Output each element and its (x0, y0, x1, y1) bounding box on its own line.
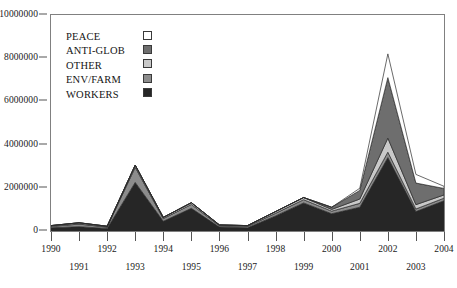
x-tick-label: 1997 (238, 262, 257, 272)
y-tick-label: 6000000 (4, 95, 38, 105)
legend-item: ENV/FARM (66, 71, 166, 85)
x-tick-mark (444, 232, 445, 241)
x-tick-mark (388, 232, 389, 241)
x-tick-label: 1996 (210, 244, 229, 254)
x-tick-mark (360, 232, 361, 241)
x-tick-mark (163, 232, 164, 241)
x-tick-label: 1990 (41, 244, 60, 254)
legend-item-label: WORKERS (66, 89, 119, 100)
legend-item-label: ENV/FARM (66, 74, 121, 85)
x-tick-label: 1991 (69, 262, 88, 272)
y-tick-label: 4000000 (4, 139, 38, 149)
legend-swatch (143, 31, 152, 40)
x-tick-label: 2002 (378, 244, 397, 254)
x-tick-mark (107, 232, 108, 241)
y-tick-label: 2000000 (4, 182, 38, 192)
y-tick-label: 0 (33, 225, 38, 235)
y-tick-mark (39, 14, 47, 15)
x-tick-label: 1994 (154, 244, 173, 254)
x-tick-label: 1998 (266, 244, 285, 254)
y-tick-label: 8000000 (4, 52, 38, 62)
legend-item: ANTI-GLOB (66, 42, 166, 56)
legend-item-label: PEACE (66, 31, 100, 42)
x-tick-mark (51, 232, 52, 241)
legend-item-label: OTHER (66, 60, 102, 71)
x-tick-mark (191, 232, 192, 241)
x-tick-label: 2001 (350, 262, 369, 272)
legend-item: PEACE (66, 28, 166, 42)
x-tick-mark (332, 232, 333, 241)
legend-swatch (143, 45, 152, 54)
x-tick-label: 1995 (182, 262, 201, 272)
legend-item-label: ANTI-GLOB (66, 45, 125, 56)
y-tick-mark (39, 186, 47, 187)
y-tick-label: 10000000 (0, 9, 38, 19)
legend-item: OTHER (66, 57, 166, 71)
x-axis: 1990199119921993199419951996199719981999… (50, 232, 445, 288)
legend-swatch (143, 74, 152, 83)
x-tick-mark (135, 232, 136, 241)
y-tick-mark (39, 57, 47, 58)
x-tick-mark (79, 232, 80, 241)
chart-page: 1000000080000006000000400000020000000 PE… (0, 0, 457, 288)
x-tick-mark (219, 232, 220, 241)
legend-swatch (143, 59, 152, 68)
legend-swatch (143, 88, 152, 97)
x-tick-mark (248, 232, 249, 241)
x-tick-label: 1993 (126, 262, 145, 272)
chart-legend: PEACEANTI-GLOBOTHERENV/FARMWORKERS (66, 28, 166, 100)
y-tick-mark (39, 143, 47, 144)
y-tick-mark (39, 100, 47, 101)
y-tick-mark (39, 230, 47, 231)
x-tick-label: 1992 (97, 244, 116, 254)
x-tick-label: 2000 (322, 244, 341, 254)
x-tick-mark (276, 232, 277, 241)
x-tick-label: 1999 (294, 262, 313, 272)
x-tick-label: 2004 (434, 244, 453, 254)
legend-item: WORKERS (66, 86, 166, 100)
x-tick-mark (416, 232, 417, 241)
x-tick-label: 2003 (406, 262, 425, 272)
x-tick-mark (304, 232, 305, 241)
